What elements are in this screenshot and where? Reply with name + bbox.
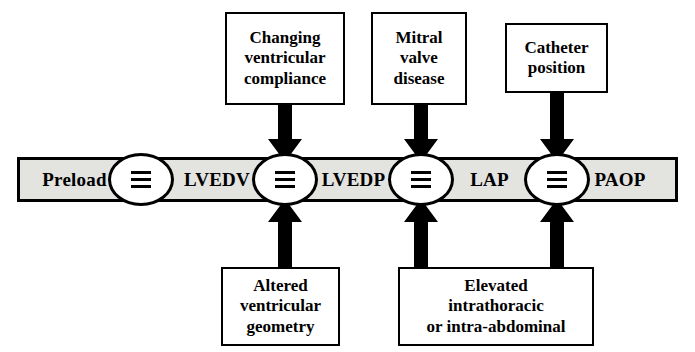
identical-to-icon [411,169,431,190]
chain-segment-label: LAP [470,170,509,189]
diagram-canvas: Changing ventricular compliance Mitral v… [0,0,695,352]
chain-segment-label: Preload [42,170,106,189]
factor-box-elevated-intrathoracic-or-intra-abdominal: Elevated intrathoracic or intra-abdomina… [398,267,594,346]
factor-line: or intra-abdominal [426,317,565,337]
factor-line: Changing [250,28,321,48]
identical-to-icon [131,169,151,190]
chain-segment-label: PAOP [594,170,645,189]
factor-line: Mitral [395,28,442,48]
chain-segment-label: LVEDV [184,170,250,189]
arrow-up-to-node-3 [403,198,439,268]
factor-line: position [528,58,586,78]
equivalence-node-2 [252,153,318,206]
factor-line: geometry [247,317,315,337]
factor-line: Catheter [524,38,588,58]
factor-box-altered-ventricular-geometry: Altered ventricular geometry [221,267,340,346]
equivalence-node-1 [108,153,174,206]
factor-line: disease [394,69,445,89]
arrow-up-to-node-2 [267,198,303,268]
equivalence-node-3 [388,153,454,206]
identical-to-icon [275,169,295,190]
factor-box-changing-ventricular-compliance: Changing ventricular compliance [225,12,345,105]
factor-line: Elevated [464,276,527,296]
factor-line: ventricular [244,48,325,68]
factor-line: Altered [253,276,307,296]
arrow-up-to-node-4 [539,198,575,268]
factor-box-catheter-position: Catheter position [505,23,608,93]
equivalence-node-4 [524,153,590,206]
chain-segment-label: LVEDP [322,170,386,189]
factor-line: compliance [244,69,326,89]
factor-line: valve [400,48,438,68]
factor-line: intrathoracic [448,296,543,316]
factor-box-mitral-valve-disease: Mitral valve disease [371,12,467,105]
factor-line: ventricular [240,296,321,316]
identical-to-icon [547,169,567,190]
